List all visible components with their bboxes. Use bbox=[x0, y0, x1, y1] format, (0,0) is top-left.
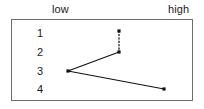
axis-label-low: low bbox=[52, 4, 69, 15]
data-series-layer bbox=[12, 20, 194, 102]
data-points-group bbox=[66, 29, 165, 90]
data-point-row-3[interactable] bbox=[66, 69, 69, 72]
segments-group bbox=[68, 31, 164, 89]
data-point-row-4[interactable] bbox=[162, 87, 165, 90]
axis-label-high: high bbox=[168, 4, 189, 15]
data-point-row-1[interactable] bbox=[117, 29, 120, 32]
plot-area-box: 1 2 3 4 bbox=[11, 19, 193, 101]
scale-plot-figure: low high 1 2 3 4 bbox=[0, 0, 204, 109]
data-point-row-2[interactable] bbox=[117, 50, 120, 53]
segment-p3-p4 bbox=[68, 71, 164, 89]
segment-p2-p3 bbox=[68, 52, 119, 71]
